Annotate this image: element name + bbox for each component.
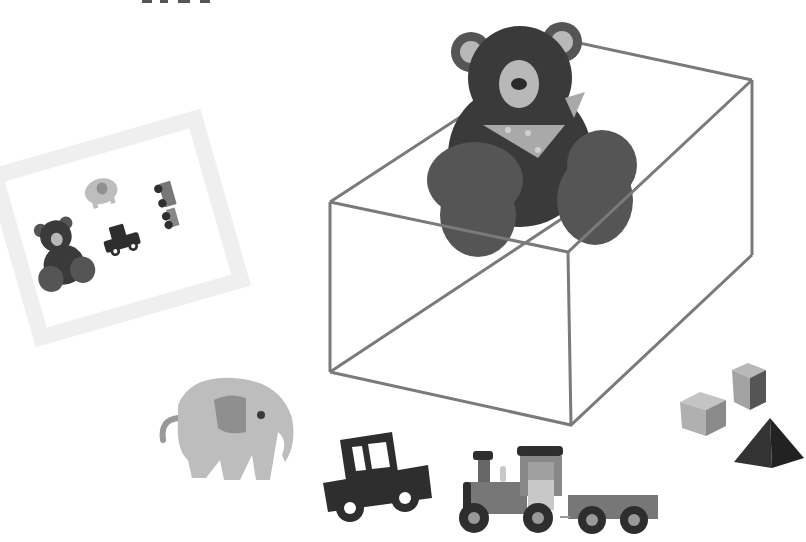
triangle-block: [734, 418, 804, 468]
toy-blocks: [680, 363, 804, 468]
tall-block: [732, 363, 766, 410]
cropped-heading: [142, 0, 210, 3]
elephant: [163, 378, 294, 480]
toy-photo: [0, 109, 251, 348]
toy-car: [323, 432, 432, 522]
toy-train: [459, 446, 658, 534]
toy-scene: [0, 0, 806, 542]
illustration-canvas: [0, 0, 806, 542]
teddy-bear: [427, 22, 637, 257]
cube-block: [680, 392, 726, 436]
